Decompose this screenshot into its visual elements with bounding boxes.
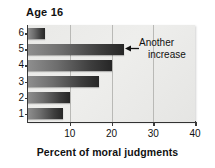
y-tick-mark-5 bbox=[25, 49, 28, 51]
bar-2 bbox=[28, 92, 70, 103]
annotation-label: Another increase bbox=[139, 37, 211, 61]
bar-3 bbox=[28, 76, 99, 87]
x-axis-label: Percent of moral judgments bbox=[0, 146, 215, 158]
bar-1 bbox=[28, 108, 63, 119]
bar-6 bbox=[28, 28, 45, 39]
chart-title: Age 16 bbox=[26, 6, 63, 18]
x-tick-mark-10 bbox=[70, 122, 72, 126]
bar-5 bbox=[28, 44, 124, 55]
x-tick-label-10: 10 bbox=[64, 128, 75, 139]
chart-figure: Age 16 654321 10203040 Percent of moral … bbox=[0, 0, 215, 168]
y-tick-mark-3 bbox=[25, 82, 28, 84]
annotation-arrow-icon bbox=[125, 44, 140, 53]
y-tick-mark-6 bbox=[25, 33, 28, 35]
y-tick-label-6: 6 bbox=[18, 28, 24, 38]
y-tick-mark-1 bbox=[25, 114, 28, 116]
x-tick-label-30: 30 bbox=[148, 128, 159, 139]
x-tick-mark-40 bbox=[195, 122, 197, 126]
y-tick-mark-2 bbox=[25, 98, 28, 100]
annotation-line-2: increase bbox=[148, 49, 211, 61]
y-tick-label-3: 3 bbox=[18, 77, 24, 87]
y-axis-tick-labels: 654321 bbox=[10, 25, 24, 122]
bar-4 bbox=[28, 60, 112, 71]
x-tick-mark-20 bbox=[112, 122, 114, 126]
y-tick-mark-4 bbox=[25, 65, 28, 67]
y-tick-label-5: 5 bbox=[18, 44, 24, 54]
y-tick-label-4: 4 bbox=[18, 60, 24, 70]
annotation-line-1: Another bbox=[139, 37, 174, 48]
y-tick-label-2: 2 bbox=[18, 93, 24, 103]
x-tick-label-20: 20 bbox=[106, 128, 117, 139]
y-tick-label-1: 1 bbox=[18, 109, 24, 119]
x-tick-label-40: 40 bbox=[189, 128, 200, 139]
x-tick-mark-30 bbox=[153, 122, 155, 126]
